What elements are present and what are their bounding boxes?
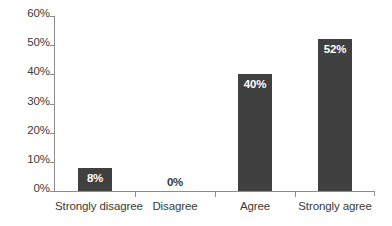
y-axis-tick-label: 30% [27, 96, 50, 108]
y-axis-tick-label: 0% [34, 183, 50, 195]
bar-value-label: 52% [318, 43, 352, 55]
bar[interactable]: 52% [318, 39, 352, 191]
y-axis-tick-label: 40% [27, 66, 50, 78]
x-axis-tick-mark [215, 192, 216, 197]
x-axis-category-label: Agree [215, 200, 295, 213]
x-axis-category-label: Strongly disagree [55, 200, 135, 213]
bar-chart: 0%10%20%30%40%50%60% 8%0%40%52% Strongly… [0, 0, 392, 226]
plot-area: 8%0%40%52% [55, 16, 375, 191]
y-axis-tick-mark [50, 133, 54, 134]
y-axis-tick-mark [50, 45, 54, 46]
y-axis-tick-mark [50, 104, 54, 105]
y-axis-tick-label: 20% [27, 125, 50, 137]
x-axis-end-tick [374, 191, 375, 196]
bar-value-label: 8% [78, 172, 112, 184]
bar-group: 0% [135, 16, 215, 191]
x-axis-category-label: Disagree [135, 200, 215, 213]
bar[interactable]: 40% [238, 74, 272, 191]
x-axis-category-label: Strongly agree [295, 200, 375, 213]
bar-value-label: 40% [238, 78, 272, 90]
bar-group: 52% [295, 16, 375, 191]
x-axis-tick-mark [295, 192, 296, 197]
y-axis-tick-mark [50, 162, 54, 163]
bar-group: 40% [215, 16, 295, 191]
bar[interactable]: 8% [78, 168, 112, 191]
y-axis-tick-label: 50% [27, 37, 50, 49]
y-axis-tick-label: 10% [27, 154, 50, 166]
x-axis-tick-mark [135, 192, 136, 197]
y-axis-tick-mark [50, 74, 54, 75]
bar-value-label: 0% [167, 176, 183, 188]
bar-group: 8% [55, 16, 135, 191]
y-axis-tick-label: 60% [27, 8, 50, 20]
y-axis-tick-mark [50, 16, 54, 17]
